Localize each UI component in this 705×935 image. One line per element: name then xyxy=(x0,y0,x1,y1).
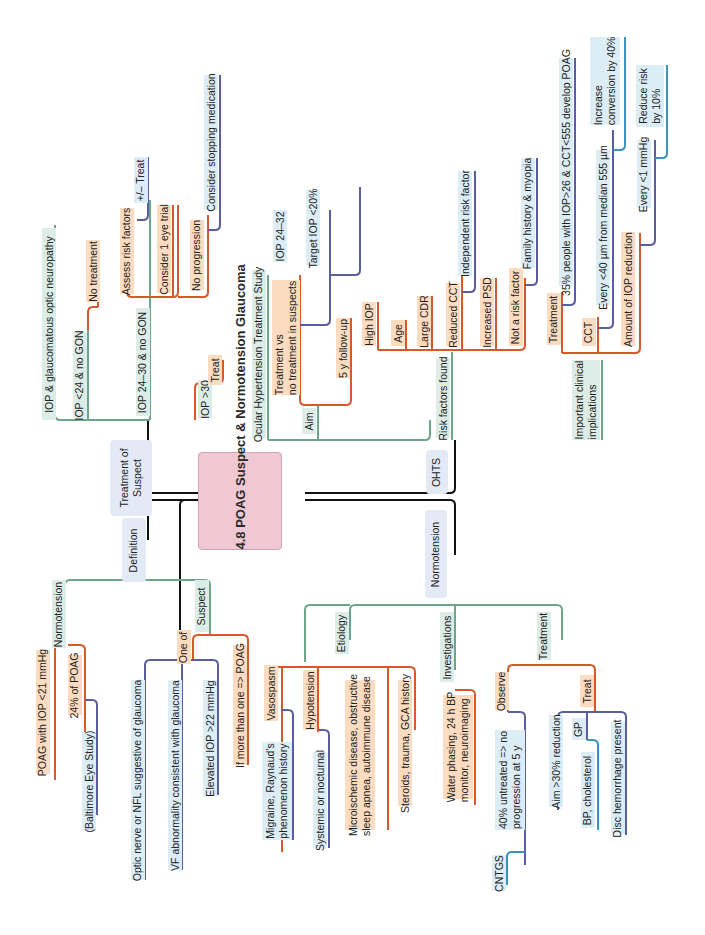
node-label: Migraine, Raynaud's phenomenon history xyxy=(264,743,290,838)
node-label: Increased PSD xyxy=(481,277,494,348)
node-untreated: 40% untreated => no progression at 5 y xyxy=(495,730,525,830)
node-label: BP, cholesterol xyxy=(582,755,595,824)
node-label: Independent risk factor xyxy=(459,170,472,277)
node-label: Suspect xyxy=(196,587,209,625)
node-age: Age xyxy=(391,320,405,346)
node-label: Systemic or nocturnal xyxy=(314,750,327,851)
node-clinical-implications: Important clinical implications xyxy=(572,360,600,440)
node-label: High IOP xyxy=(363,303,376,346)
node-label: IOP 24–32 xyxy=(274,211,287,261)
node-label: CCT xyxy=(583,321,596,343)
node-pct-poag: 24% of POAG xyxy=(68,655,82,715)
node-iop-reduction: Amount of IOP reduction xyxy=(621,232,635,346)
node-label: Treatment xyxy=(538,612,551,659)
node-no-treatment: No treatment xyxy=(86,240,100,302)
central-topic-label: 4.8 POAG Suspect & Normotension Glaucoma xyxy=(233,453,248,549)
node-hypotension: Hypotension xyxy=(303,670,317,730)
node-label: No treatment xyxy=(87,241,100,302)
node-label: Every <1 mmHg xyxy=(638,136,651,212)
node-every-1: Every <1 mmHg xyxy=(637,140,651,208)
node-baltimore: (Baltimore Eye Study) xyxy=(82,732,96,830)
node-label: IOP & glaucomatous optic neuropathy xyxy=(43,236,56,413)
node-label: Not a risk factor xyxy=(510,270,523,344)
node-label: Steroids, trauma, GCA history xyxy=(399,674,412,813)
node-label: One of xyxy=(178,631,191,663)
category-normotension: Normotension xyxy=(425,510,447,598)
node-label: IOP 24–30 & no GON xyxy=(137,311,150,412)
node-microischemic: Microischemic disease, obstructive sleep… xyxy=(345,680,375,830)
node-systemic: Systemic or nocturnal xyxy=(313,752,327,848)
node-increased-psd: Increased PSD xyxy=(480,278,494,346)
node-label: 35% people with IOP>26 & CCT<555 develop… xyxy=(560,49,573,296)
node-label: Disc hemorrhage present xyxy=(612,719,625,837)
category-ohts: OHTS xyxy=(426,450,448,494)
category-label: OHTS xyxy=(431,457,444,486)
node-elevated-iop: Elevated IOP >22 mmHg xyxy=(203,680,217,796)
node-label: No progression xyxy=(191,219,204,290)
node-disc-hemorrhage: Disc hemorrhage present xyxy=(611,722,625,834)
node-label: Aim >30% reduction xyxy=(550,714,563,808)
node-label: VF abnormality consistent with glaucoma xyxy=(169,680,182,871)
node-vf-abnormality: VF abnormality consistent with glaucoma xyxy=(168,680,182,870)
node-high-iop: High IOP xyxy=(362,302,376,346)
node-increase-conversion: Increase conversion by 40% xyxy=(590,37,620,125)
node-follow-up: 5 y follow-up xyxy=(336,318,350,378)
node-ohts-treatment: Treatment xyxy=(547,293,561,345)
node-target-iop: Target IOP <20% xyxy=(306,190,320,266)
node-not-risk-factor: Not a risk factor xyxy=(509,268,523,346)
category-label: Treatment of Suspect xyxy=(118,448,144,507)
node-label: Elevated IOP >22 mmHg xyxy=(204,680,217,796)
node-label: Ocular Hypertension Treatment Study xyxy=(253,266,266,442)
node-label: Treatment vs no treatment in suspects xyxy=(273,280,299,394)
node-assess-risk: Assess risk factors xyxy=(120,208,134,294)
node-label: Family history & myopia xyxy=(522,157,535,268)
node-nt-treat: Treat xyxy=(580,675,594,707)
category-label: Normotension xyxy=(430,521,443,586)
node-label: 5 y follow-up xyxy=(337,319,350,378)
node-iop-24-32: IOP 24–32 xyxy=(273,210,287,262)
node-treat-suspect: Treat xyxy=(208,355,222,385)
node-label: Increase conversion by 40% xyxy=(592,37,618,126)
node-label: Important clinical implications xyxy=(573,361,599,440)
node-label: Etiology xyxy=(336,614,349,651)
node-iop-lt24: IOP <24 & no GON xyxy=(73,332,87,418)
node-label: Microischemic disease, obstructive sleep… xyxy=(347,674,373,836)
node-family-history: Family history & myopia xyxy=(521,158,535,268)
node-gp: GP xyxy=(572,718,586,740)
node-def-suspect: Suspect xyxy=(195,580,209,632)
node-no-progression: No progression xyxy=(190,220,204,290)
node-reduced-cct: Reduced CCT xyxy=(446,283,460,346)
node-cct: CCT xyxy=(582,318,596,346)
node-label: Reduce risk by 10% xyxy=(637,68,663,123)
node-treatment-vs: Treatment vs no treatment in suspects xyxy=(272,280,300,395)
node-label: Vasospasm xyxy=(265,666,278,720)
node-iop-24-30: IOP 24–30 & no GON xyxy=(136,308,150,416)
node-label: POAG with IOP <21 mmHg xyxy=(37,648,50,775)
node-label: Optic nerve or NFL suggestive of glaucom… xyxy=(132,679,145,881)
node-independent-risk: Independent risk factor xyxy=(458,171,472,276)
node-gon: IOP & glaucomatous optic neuropathy xyxy=(42,228,56,420)
node-observe: Observe xyxy=(495,672,509,710)
node-label: Consider stopping medication xyxy=(205,73,218,211)
node-label: 24% of POAG xyxy=(69,652,82,718)
node-label: IOP <24 & no GON xyxy=(74,330,87,420)
node-label: Treat xyxy=(581,679,594,703)
node-ohts-study: Ocular Hypertension Treatment Study xyxy=(252,270,266,438)
node-label: CNTGS xyxy=(493,855,506,892)
category-treatment-of-suspect: Treatment of Suspect xyxy=(110,440,152,516)
node-label: Age xyxy=(392,324,405,343)
node-risk-factors: Risk factors found xyxy=(436,358,450,438)
mind-map: 4.8 POAG Suspect & Normotension Glaucoma… xyxy=(0,0,705,935)
node-cntgs: CNTGS xyxy=(492,855,506,891)
node-label: Investigations xyxy=(441,615,454,679)
node-label: Large CDR xyxy=(418,295,431,348)
node-develop-poag: 35% people with IOP>26 & CCT<555 develop… xyxy=(559,58,573,286)
node-label: Aim xyxy=(303,412,316,430)
node-label: GP xyxy=(573,721,586,736)
node-water-phasing: Water phasing, 24 h BP monitor, neuroima… xyxy=(443,695,473,799)
node-label: Reduced CCT xyxy=(447,281,460,348)
node-label: (Baltimore Eye Study) xyxy=(83,730,96,832)
node-large-cdr: Large CDR xyxy=(417,296,431,346)
node-aim: Aim xyxy=(302,408,316,434)
node-migraine: Migraine, Raynaud's phenomenon history xyxy=(262,742,292,840)
